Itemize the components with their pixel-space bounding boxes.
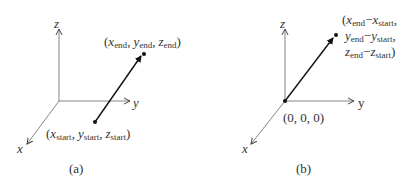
end-point: [334, 33, 338, 37]
caption-a: (a): [69, 161, 83, 176]
x-axis: [251, 101, 285, 144]
vector-arrow: [285, 38, 333, 101]
start-point-label: (xstart,ystart,zstart): [46, 126, 130, 142]
start-point: [93, 120, 97, 124]
end-point-label-line1: (xend−xstart,: [342, 12, 397, 28]
x-axis-label: x: [16, 141, 23, 156]
end-point: [142, 52, 146, 56]
y-axis-label: y: [358, 95, 365, 110]
origin-point: [283, 99, 287, 103]
panel-b: z y x (0, 0, 0) (xend−xstart, yend−ystar…: [241, 12, 397, 176]
end-point-label-line3: zend−zstart): [344, 44, 395, 60]
x-axis-label: x: [241, 141, 248, 156]
vector-arrow: [95, 56, 141, 122]
end-point-label: (xend,yend,zend): [104, 34, 181, 50]
z-axis-label: z: [279, 16, 285, 31]
panel-a: z y x (xend,yend,zend) (xstart,ystart,zs…: [16, 16, 181, 176]
z-axis-label: z: [53, 16, 59, 31]
vector-diagram: z y x (xend,yend,zend) (xstart,ystart,zs…: [0, 0, 416, 182]
end-point-label-line2: yend−ystart,: [343, 28, 396, 44]
caption-b: (b): [296, 161, 311, 176]
origin-label: (0, 0, 0): [283, 110, 324, 125]
y-axis-label: y: [131, 95, 139, 110]
